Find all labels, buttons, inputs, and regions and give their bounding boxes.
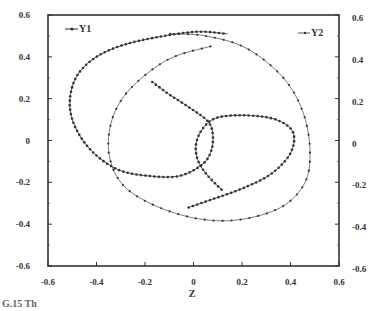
phase-plot: -0.6-0.4-0.200.20.40.6 -0.6-0.4-0.200.20… — [0, 0, 390, 311]
y-tick-left: 0 — [26, 136, 31, 146]
series-y1-inner — [187, 114, 295, 209]
y-tick-right: 0.4 — [352, 55, 364, 65]
x-tick: -0.6 — [41, 277, 56, 287]
legend-y1: Y1 — [65, 23, 91, 34]
y-tick-left: -0.6 — [16, 261, 31, 271]
series-layer — [68, 30, 311, 222]
y-tick-right: -0.6 — [352, 264, 367, 274]
x-tick: -0.2 — [138, 277, 153, 287]
y-tick-left: 0.6 — [19, 10, 31, 20]
y-tick-left: 0.4 — [19, 52, 31, 62]
y-tick-left: 0.2 — [19, 94, 31, 104]
axis-ticks — [48, 15, 339, 266]
x-tick: -0.4 — [89, 277, 104, 287]
y-tick-right: 0.6 — [352, 13, 364, 23]
y-tick-right: 0.2 — [352, 97, 364, 107]
series-y1 — [68, 30, 227, 178]
x-tick: 0.6 — [333, 277, 345, 287]
y-tick-right: 0 — [352, 139, 357, 149]
y-tick-right: -0.2 — [352, 180, 367, 190]
x-tick: 0.4 — [285, 277, 297, 287]
legend-y1-label: Y1 — [79, 23, 91, 34]
y-tick-left: -0.4 — [16, 219, 31, 229]
legend-y2: Y2 — [298, 27, 323, 38]
x-axis-labels: -0.6-0.4-0.200.20.40.6 — [41, 277, 345, 287]
legend-y2-label: Y2 — [311, 27, 323, 38]
y-tick-right: -0.4 — [352, 222, 367, 232]
figure-caption: G.15 Th — [2, 298, 37, 309]
x-tick: 0.2 — [236, 277, 248, 287]
x-axis-title: Z — [189, 288, 196, 299]
y-axis-right-labels: -0.6-0.4-0.200.20.40.6 — [352, 13, 367, 274]
plot-frame — [48, 15, 339, 266]
x-tick: 0 — [191, 277, 196, 287]
y-axis-left-labels: -0.6-0.4-0.200.20.40.6 — [16, 10, 31, 271]
series-y2 — [107, 33, 311, 222]
y-tick-left: -0.2 — [16, 177, 31, 187]
